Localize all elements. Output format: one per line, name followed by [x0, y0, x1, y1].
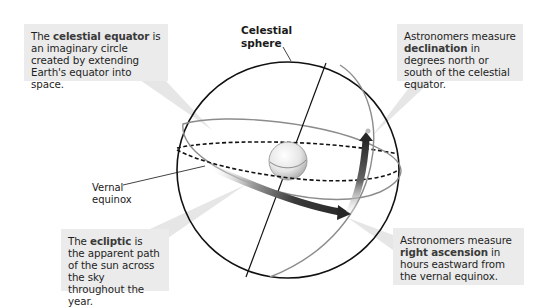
- callout-term: declination: [404, 42, 468, 54]
- callout-text: Astronomers measure: [404, 30, 516, 42]
- earth: [269, 142, 307, 180]
- callout-declination: Astronomers measure declination in degre…: [397, 24, 523, 81]
- callout-text: The: [31, 30, 53, 42]
- equator-pointer: [140, 80, 212, 130]
- callout-right-ascension: Astronomers measure right ascension in h…: [393, 228, 524, 285]
- vernal-leader: [123, 166, 205, 185]
- vernal-label-line2: equinox: [92, 194, 132, 206]
- dec-arrowhead: [359, 132, 373, 141]
- callout-term: ecliptic: [90, 235, 131, 247]
- callout-celestial-equator: The celestial equator is an imaginary ci…: [24, 24, 168, 81]
- ra-pointer: [348, 218, 393, 250]
- star-point: [366, 129, 371, 134]
- vernal-equinox-label: Vernal equinox: [92, 182, 132, 206]
- vernal-label-line1: Vernal: [92, 182, 132, 194]
- sphere-label-line2: sphere: [241, 37, 292, 50]
- declination-arrow: [349, 140, 366, 213]
- callout-text: The: [68, 235, 90, 247]
- callout-ecliptic: The ecliptic is the apparent path of the…: [61, 229, 169, 291]
- callout-term: celestial equator: [53, 30, 149, 42]
- celestial-sphere-label: Celestial sphere: [241, 24, 292, 50]
- callout-text: Astronomers measure: [400, 234, 512, 246]
- callout-term: right ascension: [400, 246, 488, 258]
- sphere-label-line1: Celestial: [241, 24, 292, 37]
